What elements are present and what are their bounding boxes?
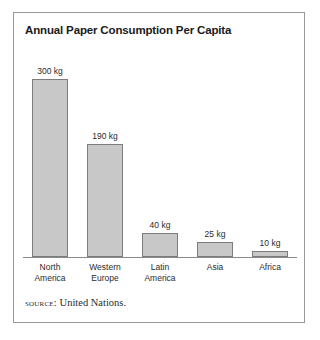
bar-western-europe[interactable] — [87, 144, 123, 257]
bar-latin-america[interactable] — [142, 233, 178, 257]
category-label-north-america: NorthAmerica — [23, 262, 77, 284]
bar-value-label: 190 kg — [78, 131, 132, 141]
page-title: Annual Paper Consumption Per Capita — [25, 24, 231, 36]
x-axis-line — [23, 257, 297, 258]
category-label-line: America — [23, 273, 77, 284]
category-label-line: North — [23, 262, 77, 273]
category-label-africa: Africa — [243, 262, 297, 273]
category-label-line: Europe — [78, 273, 132, 284]
bar-value-label: 300 kg — [23, 66, 77, 76]
category-label-line: Western — [78, 262, 132, 273]
bar-value-label: 40 kg — [133, 220, 187, 230]
source-note-label: source: — [25, 297, 57, 308]
bar-value-label: 25 kg — [188, 229, 242, 239]
category-label-latin-america: LatinAmerica — [133, 262, 187, 284]
category-label-line: Africa — [243, 262, 297, 273]
category-label-line: Latin — [133, 262, 187, 273]
category-label-line: Asia — [188, 262, 242, 273]
bar-value-label: 10 kg — [243, 238, 297, 248]
bar-north-america[interactable] — [32, 79, 68, 257]
category-label-line: America — [133, 273, 187, 284]
category-label-western-europe: WesternEurope — [78, 262, 132, 284]
bar-group-asia: 25 kg — [188, 226, 242, 257]
figure-frame: Annual Paper Consumption Per Capita 300 … — [13, 12, 305, 323]
category-label-asia: Asia — [188, 262, 242, 273]
bar-group-latin-america: 40 kg — [133, 217, 187, 257]
bar-asia[interactable] — [197, 242, 233, 257]
bar-group-north-america: 300 kg — [23, 63, 77, 257]
chart-plot-area: 300 kg 190 kg 40 kg 25 kg 10 kg — [23, 49, 297, 258]
bar-group-western-europe: 190 kg — [78, 128, 132, 257]
source-note-text: United Nations. — [60, 297, 127, 308]
bar-group-africa: 10 kg — [243, 235, 297, 257]
bar-africa[interactable] — [252, 251, 288, 257]
x-axis-tick-labels: NorthAmerica WesternEurope LatinAmerica … — [23, 262, 297, 292]
source-note: source: United Nations. — [25, 297, 126, 308]
